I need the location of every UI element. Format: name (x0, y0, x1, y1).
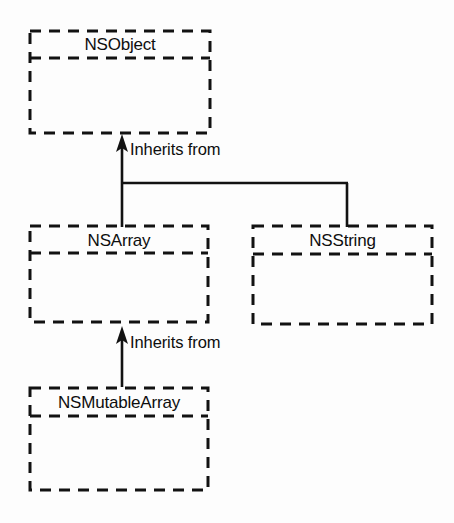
inheritance-edge-to-nsarray (116, 326, 128, 387)
edge-label-nsmutablearray-inherits: Inherits from (130, 334, 220, 351)
diagram-canvas: NSObject NSArray NSString NSMutableArray… (0, 0, 454, 523)
class-title-nsmutablearray: NSMutableArray (30, 394, 208, 411)
class-title-nsstring: NSString (253, 232, 432, 249)
diagram-graphics (0, 0, 454, 523)
class-title-nsobject: NSObject (30, 36, 210, 53)
class-title-nsarray: NSArray (30, 232, 208, 249)
edge-label-nsarray-inherits: Inherits from (130, 141, 220, 158)
